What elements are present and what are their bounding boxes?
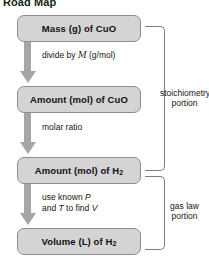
arrow-down-1 bbox=[17, 42, 39, 86]
bracket-label-stoichiometry: stoichiometry portion bbox=[160, 88, 209, 108]
arrow-head bbox=[20, 71, 36, 83]
arrow-shaft bbox=[24, 42, 31, 72]
node-label: Amount (mol) of H bbox=[35, 165, 120, 176]
arrow-shaft bbox=[24, 113, 31, 143]
bracket-top-arm bbox=[145, 176, 165, 188]
step-text-post: (g/mol) bbox=[87, 50, 116, 60]
arrow-down-2 bbox=[17, 113, 39, 157]
node-label: Volume (L) of H bbox=[42, 236, 113, 247]
node-mol-h2: Amount (mol) of H2 bbox=[17, 157, 141, 184]
node-mass-cuo: Mass (g) of CuO bbox=[17, 15, 141, 42]
volume-symbol: V bbox=[92, 203, 98, 213]
step-text-pre: divide by bbox=[42, 50, 78, 60]
arrow-head bbox=[20, 142, 36, 154]
arrow-shaft bbox=[24, 184, 31, 214]
pressure-symbol: P bbox=[85, 192, 91, 202]
arrow-down-3 bbox=[17, 184, 39, 228]
step-text-pre: use known bbox=[42, 192, 85, 202]
step-text-to-find: to find bbox=[64, 203, 92, 213]
step-text-and: and bbox=[42, 203, 59, 213]
step-divide-by-molar-mass: divide by M (g/mol) bbox=[42, 50, 115, 61]
step-line-1: use known P bbox=[42, 192, 97, 203]
node-mol-cuo: Amount (mol) of CuO bbox=[17, 86, 141, 113]
bracket-label-gas-law: gas law portion bbox=[160, 201, 209, 221]
page-title: Road Map bbox=[3, 0, 56, 8]
node-label: Mass (g) of CuO bbox=[42, 23, 116, 34]
step-line-2: and T to find V bbox=[42, 203, 97, 214]
bracket-top-arm bbox=[145, 26, 165, 38]
bracket-bottom-arm bbox=[145, 159, 165, 171]
bracket-label-line-1: stoichiometry bbox=[160, 88, 209, 98]
node-volume-h2: Volume (L) of H2 bbox=[17, 228, 141, 255]
bracket-bottom-arm bbox=[145, 238, 165, 250]
road-map-diagram: Road Map Mass (g) of CuO divide by M (g/… bbox=[0, 0, 209, 265]
step-text: molar ratio bbox=[42, 122, 82, 132]
node-label: Amount (mol) of CuO bbox=[30, 94, 128, 105]
arrow-head bbox=[20, 213, 36, 225]
bracket-label-line-2: portion bbox=[160, 98, 209, 108]
step-use-known-p-t-find-v: use known P and T to find V bbox=[42, 192, 97, 214]
molar-mass-symbol: M bbox=[78, 50, 87, 60]
step-molar-ratio: molar ratio bbox=[42, 122, 82, 133]
bracket-label-line-1: gas law bbox=[160, 201, 209, 211]
bracket-label-line-2: portion bbox=[160, 211, 209, 221]
